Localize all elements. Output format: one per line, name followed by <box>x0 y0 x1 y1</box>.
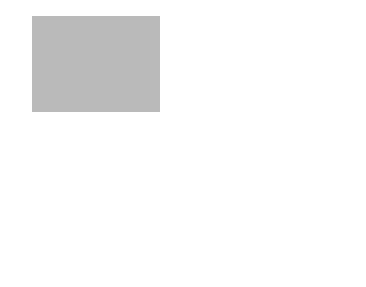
top-panel <box>32 16 160 112</box>
boundary-layer-diagram <box>0 0 366 287</box>
